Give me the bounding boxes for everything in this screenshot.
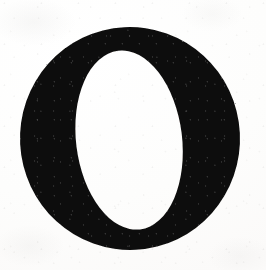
letter-o-svg [0, 0, 266, 270]
scanned-page [0, 0, 266, 270]
ink-body [14, 21, 245, 255]
letter-glyph [0, 0, 266, 270]
letter-o-outer-bowl [14, 21, 245, 255]
